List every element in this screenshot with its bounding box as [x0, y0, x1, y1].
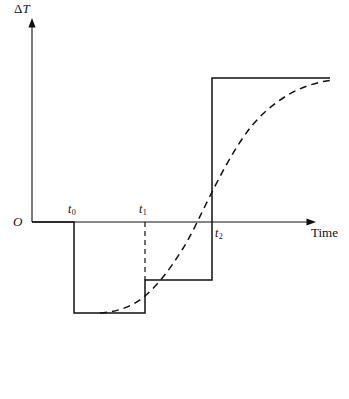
origin-label: O	[13, 215, 22, 228]
y-axis	[28, 18, 35, 222]
tick-label-t2-base: t	[215, 226, 218, 240]
plot-canvas	[0, 0, 349, 399]
tick-label-t0-sub: 0	[72, 208, 76, 217]
tick-label-t1: t1	[139, 203, 146, 215]
tick-label-t0-base: t	[68, 202, 71, 216]
tick-label-t2: t2	[215, 227, 222, 239]
step-input-curve	[32, 78, 330, 313]
y-axis-arrow-icon	[28, 18, 35, 28]
y-axis-label-symbol: T	[22, 1, 29, 16]
physics-step-response-figure: ΔT O t0 t1 t2 Time	[0, 0, 349, 399]
x-axis-label: Time	[311, 226, 338, 239]
system-response-curve	[100, 81, 330, 314]
tick-label-t1-base: t	[139, 202, 142, 216]
tick-label-t0: t0	[68, 203, 75, 215]
tick-label-t2-sub: 2	[219, 232, 223, 241]
tick-label-t1-sub: 1	[143, 208, 147, 217]
y-axis-label: ΔT	[14, 2, 30, 15]
